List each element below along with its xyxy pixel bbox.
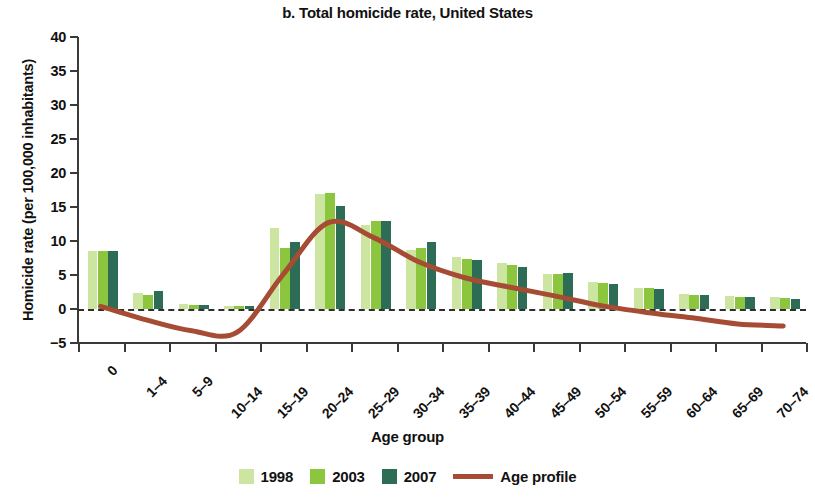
- x-axis-tick-mark: [78, 343, 80, 352]
- bar-2003-70–74: [780, 298, 790, 309]
- y-axis-tick-mark: [70, 342, 78, 344]
- legend-item-2007[interactable]: 2007: [382, 468, 437, 485]
- bar-1998-0: [88, 251, 98, 309]
- x-axis-tick-mark: [670, 343, 672, 352]
- y-axis-tick-label: 15: [26, 199, 66, 215]
- bar-2007-10–14: [245, 306, 255, 309]
- bar-2007-30–34: [427, 242, 437, 309]
- bar-2007-60–64: [700, 295, 710, 309]
- y-axis-tick-label: 40: [26, 29, 66, 45]
- bar-1998-35–39: [452, 257, 462, 309]
- x-axis-tick-label-70–74: 70–74: [774, 383, 812, 421]
- bar-2003-65–69: [735, 297, 745, 309]
- bar-2003-5–9: [189, 305, 199, 309]
- bar-1998-70–74: [770, 297, 780, 309]
- x-axis-tick-label-30–34: 30–34: [410, 383, 448, 421]
- bar-1998-25–29: [361, 225, 371, 309]
- bar-2003-50–54: [598, 283, 608, 309]
- x-axis-tick-label-45–49: 45–49: [546, 383, 584, 421]
- bar-2003-20–24: [325, 193, 335, 309]
- x-axis-tick-label-25–29: 25–29: [364, 383, 402, 421]
- x-axis-tick-mark: [169, 343, 171, 352]
- legend-item-2003[interactable]: 2003: [310, 468, 365, 485]
- bar-2007-55–59: [654, 289, 664, 309]
- chart-legend: 199820032007Age profile: [0, 468, 815, 485]
- x-axis-tick-label-5–9: 5–9: [188, 373, 215, 400]
- y-axis-tick-label: 20: [26, 165, 66, 181]
- bar-2003-15–19: [280, 248, 290, 309]
- x-axis-tick-mark: [806, 343, 808, 352]
- x-axis-tick-mark: [715, 343, 717, 352]
- bar-2003-1–4: [143, 295, 153, 309]
- bar-2003-40–44: [507, 265, 517, 309]
- x-axis-tick-label-0: 0: [104, 362, 121, 379]
- y-axis-tick-label: 35: [26, 63, 66, 79]
- y-axis-tick-mark: [70, 138, 78, 140]
- bar-2007-40–44: [518, 267, 528, 309]
- bar-2003-30–34: [416, 248, 426, 309]
- x-axis-tick-mark: [397, 343, 399, 352]
- bar-2007-25–29: [381, 221, 391, 309]
- y-axis-tick-mark: [70, 274, 78, 276]
- y-axis-tick-mark: [70, 240, 78, 242]
- x-axis-tick-label-20–24: 20–24: [319, 383, 357, 421]
- x-axis-tick-label-55–59: 55–59: [637, 383, 675, 421]
- bar-2003-0: [98, 251, 108, 309]
- legend-label: 2007: [404, 468, 437, 485]
- x-axis-tick-label-10–14: 10–14: [228, 383, 266, 421]
- x-axis-tick-mark: [124, 343, 126, 352]
- x-axis-tick-mark: [442, 343, 444, 352]
- bar-1998-1–4: [133, 293, 143, 309]
- legend-item-age-profile[interactable]: Age profile: [453, 468, 576, 485]
- bar-1998-30–34: [406, 250, 416, 309]
- x-axis-tick-mark: [761, 343, 763, 352]
- legend-label: 2003: [332, 468, 365, 485]
- x-axis-title: Age group: [0, 428, 815, 445]
- bar-2007-50–54: [609, 284, 619, 309]
- bar-2003-60–64: [689, 295, 699, 309]
- bar-1998-60–64: [679, 294, 689, 309]
- bar-1998-20–24: [315, 194, 325, 309]
- bar-2007-35–39: [472, 260, 482, 309]
- bar-1998-10–14: [224, 306, 234, 309]
- x-axis-tick-mark: [488, 343, 490, 352]
- bar-1998-45–49: [543, 274, 553, 309]
- y-axis-tick-mark: [70, 36, 78, 38]
- bar-2007-15–19: [290, 242, 300, 309]
- bar-2003-45–49: [553, 274, 563, 309]
- zero-baseline: [78, 309, 806, 311]
- legend-swatch: [382, 469, 397, 484]
- y-axis-tick-mark: [70, 206, 78, 208]
- y-axis-tick-label: 5: [26, 267, 66, 283]
- y-axis-tick-label: 0: [26, 301, 66, 317]
- x-axis-tick-mark: [533, 343, 535, 352]
- bar-1998-40–44: [497, 263, 507, 309]
- bar-2007-45–49: [563, 273, 573, 309]
- bar-2003-10–14: [234, 306, 244, 309]
- x-axis-tick-label-35–39: 35–39: [455, 383, 493, 421]
- x-axis-tick-mark: [260, 343, 262, 352]
- x-axis-tick-label-15–19: 15–19: [273, 383, 311, 421]
- bar-2003-35–39: [462, 259, 472, 309]
- bar-2003-55–59: [644, 288, 654, 309]
- y-axis-tick-label: 10: [26, 233, 66, 249]
- bar-1998-55–59: [634, 288, 644, 309]
- y-axis-tick-mark: [70, 104, 78, 106]
- x-axis-tick-label-40–44: 40–44: [501, 383, 539, 421]
- legend-swatch: [239, 469, 254, 484]
- legend-label: 1998: [261, 468, 294, 485]
- y-axis-tick-mark: [70, 308, 78, 310]
- bar-1998-65–69: [725, 296, 735, 309]
- legend-item-1998[interactable]: 1998: [239, 468, 294, 485]
- x-axis-tick-label-60–64: 60–64: [683, 383, 721, 421]
- bar-2007-5–9: [199, 305, 209, 309]
- legend-label: Age profile: [500, 468, 576, 485]
- bar-2003-25–29: [371, 221, 381, 309]
- y-axis-tick-mark: [70, 70, 78, 72]
- x-axis-tick-mark: [579, 343, 581, 352]
- y-axis-tick-mark: [70, 172, 78, 174]
- bar-2007-65–69: [745, 297, 755, 309]
- bar-1998-15–19: [270, 228, 280, 309]
- bar-2007-1–4: [154, 291, 164, 309]
- x-axis-tick-label-1–4: 1–4: [143, 373, 170, 400]
